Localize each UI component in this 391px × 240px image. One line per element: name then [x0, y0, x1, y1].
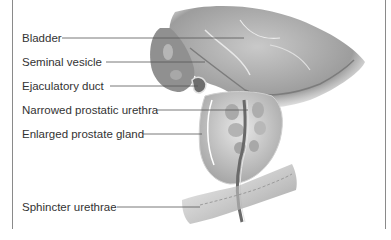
prostate-gland-shape — [199, 92, 282, 185]
ejaculatory-duct-shape — [192, 77, 206, 93]
label-sphincter-urethrae: Sphincter urethrae — [22, 200, 117, 214]
label-seminal-vesicle: Seminal vesicle — [22, 55, 102, 69]
label-ejaculatory-duct: Ejaculatory duct — [22, 79, 104, 93]
label-bladder: Bladder — [22, 31, 62, 45]
label-enlarged-prostate-gland: Enlarged prostate gland — [22, 127, 144, 141]
label-narrowed-prostatic-urethra: Narrowed prostatic urethra — [22, 103, 158, 117]
